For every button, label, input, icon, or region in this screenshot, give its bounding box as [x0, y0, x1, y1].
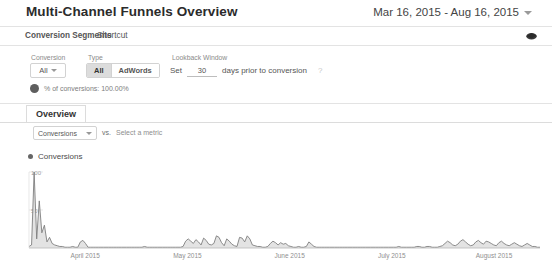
conversions-dot-icon — [30, 84, 39, 93]
vs-label: vs. — [102, 129, 111, 136]
chart-plot-area: 50100April 2015May 2015June 2015July 201… — [0, 164, 552, 267]
lookback-window-control: Set days prior to conversion ? — [170, 63, 322, 78]
x-axis-tick-label: May 2015 — [173, 252, 202, 260]
secondary-metric-select[interactable]: Select a metric — [116, 129, 162, 136]
lookback-suffix-label: days prior to conversion — [222, 66, 307, 75]
chart-line-conversions — [29, 172, 540, 247]
x-axis-tick-label: April 2015 — [71, 252, 101, 260]
conversion-label: Conversion — [31, 54, 65, 61]
type-button-all[interactable]: All — [87, 64, 111, 77]
conversions-percent-label: % of conversions: 100.00% — [44, 85, 129, 92]
chevron-down-icon — [51, 69, 57, 72]
legend-label-conversions: Conversions — [38, 152, 82, 161]
date-range-selector[interactable]: Mar 16, 2015 - Aug 16, 2015 — [373, 6, 532, 18]
date-range-label: Mar 16, 2015 - Aug 16, 2015 — [373, 6, 519, 18]
export-icon[interactable] — [525, 31, 538, 41]
help-icon[interactable]: ? — [318, 66, 322, 75]
metric-selector-row: Conversions vs. Select a metric — [0, 126, 552, 148]
lookback-prefix-label: Set — [170, 66, 182, 75]
y-axis-tick-label: 100 — [31, 170, 42, 176]
tab-strip: Overview — [0, 104, 552, 123]
chart-area-fill — [29, 172, 540, 248]
primary-metric-value: Conversions — [38, 130, 77, 137]
conversion-select-value: All — [39, 66, 47, 75]
legend-dot-icon — [28, 154, 33, 159]
shortcut-button[interactable]: Shortcut — [97, 31, 128, 40]
controls-panel: Conversion All Type All AdWords Lookback… — [0, 46, 552, 104]
type-button-group: All AdWords — [86, 63, 160, 78]
x-axis-tick-label: August 2015 — [476, 252, 513, 260]
lookback-days-input[interactable] — [187, 64, 217, 77]
type-label: Type — [88, 54, 103, 61]
type-button-adwords[interactable]: AdWords — [111, 64, 159, 77]
chart-legend: Conversions — [28, 152, 82, 161]
x-axis-tick-label: June 2015 — [274, 252, 305, 259]
chevron-down-icon — [86, 132, 92, 135]
conversions-chart: Conversions 50100April 2015May 2015June … — [0, 152, 552, 267]
conversion-select[interactable]: All — [30, 63, 66, 78]
primary-metric-select[interactable]: Conversions — [33, 126, 97, 140]
tab-overview[interactable]: Overview — [26, 105, 86, 123]
x-axis-tick-label: July 2015 — [378, 252, 406, 260]
conversions-percent-row: % of conversions: 100.00% — [30, 84, 129, 93]
chevron-down-icon — [524, 11, 532, 15]
lookback-window-label: Lookback Window — [172, 54, 227, 61]
page-title: Multi-Channel Funnels Overview — [26, 4, 238, 19]
conversion-segments-bar: Conversion Segments Shortcut — [0, 27, 552, 46]
page-header: Multi-Channel Funnels Overview Mar 16, 2… — [0, 0, 552, 27]
tab-strip-divider — [0, 122, 552, 123]
